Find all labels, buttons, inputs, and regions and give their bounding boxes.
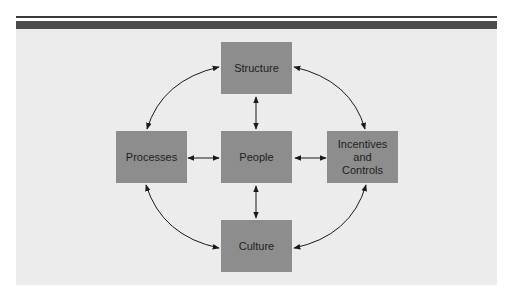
node-label-line: and <box>353 151 371 164</box>
node-structure: Structure <box>221 42 292 94</box>
node-label-line: Controls <box>342 164 383 177</box>
arc-processes-culture <box>146 185 219 248</box>
node-culture: Culture <box>221 220 292 272</box>
node-label: Processes <box>126 151 177 164</box>
node-label: Structure <box>234 62 279 75</box>
node-incentives-and-controls: Incentives and Controls <box>327 131 398 183</box>
arc-incentives-culture <box>294 185 366 248</box>
arc-structure-incentives <box>294 67 365 129</box>
node-processes: Processes <box>116 131 187 183</box>
arc-structure-processes <box>147 67 219 129</box>
node-people: People <box>221 131 292 183</box>
node-label: Culture <box>239 240 274 253</box>
node-label: People <box>239 151 273 164</box>
node-label-line: Incentives <box>338 138 388 151</box>
